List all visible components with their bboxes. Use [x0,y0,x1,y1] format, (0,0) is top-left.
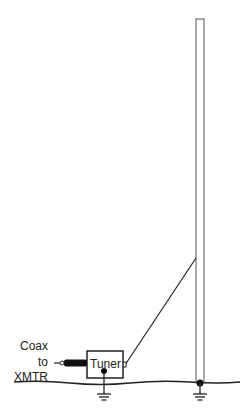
coax-label: Coax [10,339,48,353]
xmtr-label: XMTR [10,370,48,384]
vertical-mast [196,19,204,383]
to-label: to [10,355,48,369]
tuner-label: Tuner [90,357,121,371]
coax-connector [60,361,64,365]
ground-symbol-mast [193,383,207,400]
feed-wire [125,258,196,365]
coax-cable [64,360,87,367]
